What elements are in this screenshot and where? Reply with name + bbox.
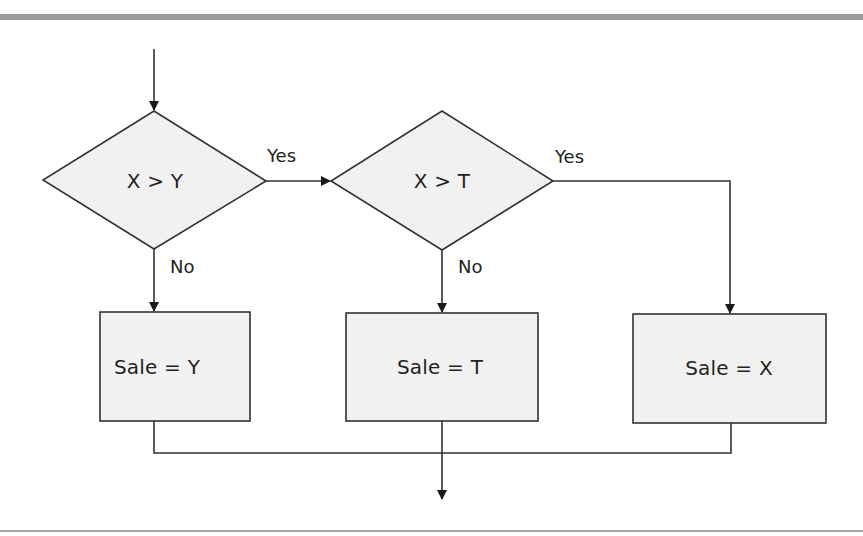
edge-label-d2-yes: Yes (555, 146, 584, 167)
decision-label-x-gt-t: X > T (414, 169, 470, 193)
edge-label-d1-yes: Yes (267, 145, 296, 166)
process-label-sale-x: Sale = X (685, 356, 773, 380)
flowchart-diagram (0, 0, 863, 536)
edge-label-d2-no: No (458, 256, 482, 277)
decision-label-x-gt-y: X > Y (127, 169, 183, 193)
edge-label-d1-no: No (170, 256, 194, 277)
process-label-sale-y: Sale = Y (114, 355, 200, 379)
process-label-sale-t: Sale = T (397, 355, 483, 379)
edge-d2-yes (553, 181, 730, 313)
page-bottom-rule (0, 530, 863, 532)
